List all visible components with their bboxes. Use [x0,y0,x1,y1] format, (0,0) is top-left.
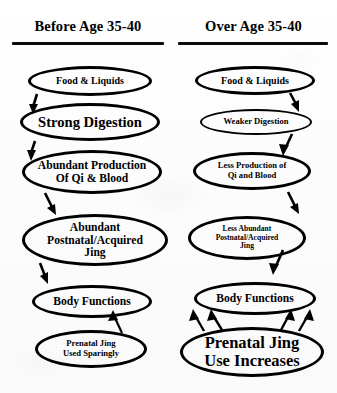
node-label-line-3: Jing [84,246,105,259]
node-label-line-2: Qi and Blood [228,170,277,180]
node-food-and-liquids-before[interactable]: Food & Liquids [28,66,152,96]
node-label: Strong Digestion [34,114,146,130]
node-label-multiline: Less Production of Qi and Blood [214,161,291,180]
arrow-production-to-jing-right [288,192,299,214]
node-label-multiline: Prenatal Jing Use Increases [200,334,303,371]
node-label-line-2: Postnatal/Acquired [47,234,143,247]
node-label-line-1: Prenatal Jing [205,333,300,352]
node-label-multiline: Less Abundant Postnatal/Acquired Jing [212,225,283,251]
header-divider-right [178,42,328,45]
node-label-line-3: Jing [240,241,254,250]
arrow-food-to-digestion-right [290,93,299,112]
node-label-line-1: Abundant [70,221,120,234]
node-label-multiline: Prenatal Jing Used Sparingly [59,339,123,358]
node-label: Weaker Digestion [219,117,292,127]
node-label-line-1: Abundant Production [38,159,146,172]
node-label: Body Functions [212,292,298,305]
node-label-multiline: Abundant Production Of Qi & Blood [34,159,150,185]
node-label-line-1: Prenatal Jing [66,338,115,348]
node-label: Food & Liquids [52,75,128,86]
node-food-and-liquids-over[interactable]: Food & Liquids [195,66,315,95]
node-prenatal-jing-use-increases[interactable]: Prenatal Jing Use Increases [180,327,324,377]
column-header-over: Over Age 35-40 [176,18,331,35]
node-label-line-2: Of Qi & Blood [56,172,128,185]
arrow-prenatal-to-body-right-1 [189,309,204,331]
diagram-canvas: Before Age 35-40 Over Age 35-40 [0,0,337,393]
node-body-functions-before[interactable]: Body Functions [32,285,152,318]
node-label-multiline: Abundant Postnatal/Acquired Jing [43,221,147,260]
node-less-production-qi-blood[interactable]: Less Production of Qi and Blood [193,152,311,190]
column-header-before: Before Age 35-40 [8,18,168,35]
node-strong-digestion[interactable]: Strong Digestion [20,103,160,141]
node-prenatal-jing-used-sparingly[interactable]: Prenatal Jing Used Sparingly [35,330,147,368]
arrow-prenatal-to-body-right-4 [299,309,314,331]
arrow-digestion-to-production-right [279,134,292,156]
arrow-production-to-jing-left [45,193,56,215]
node-weaker-digestion[interactable]: Weaker Digestion [200,109,312,135]
node-label-line-2: Use Increases [204,351,299,370]
arrow-jing-to-body-left [40,263,48,284]
node-label: Food & Liquids [217,75,293,86]
node-less-abundant-postnatal-jing[interactable]: Less Abundant Postnatal/Acquired Jing [188,216,306,260]
node-body-functions-over[interactable]: Body Functions [194,282,316,315]
header-divider-left [12,42,164,45]
node-abundant-production-qi-blood[interactable]: Abundant Production Of Qi & Blood [22,150,162,194]
node-label-line-1: Less Production of [218,160,287,170]
node-label-line-2: Used Sparingly [63,348,119,358]
node-label: Body Functions [49,295,135,308]
node-abundant-postnatal-jing[interactable]: Abundant Postnatal/Acquired Jing [22,214,168,266]
